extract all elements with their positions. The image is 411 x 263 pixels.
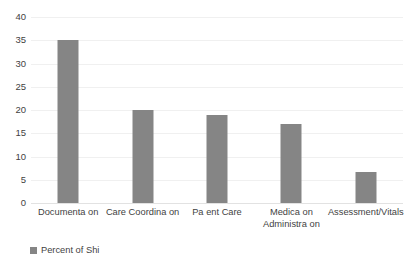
bar-slot — [254, 17, 328, 203]
y-axis-tick-labels: 4035302520151050 — [0, 17, 26, 203]
bar[interactable] — [58, 40, 79, 203]
bar[interactable] — [355, 172, 376, 203]
y-axis-tick-label: 30 — [0, 59, 26, 69]
bar-slot — [329, 17, 403, 203]
bar-slot — [31, 17, 105, 203]
bar[interactable] — [281, 124, 302, 203]
bar[interactable] — [206, 115, 227, 203]
chart-legend: Percent of Shi — [30, 245, 99, 255]
axis-baseline — [31, 203, 403, 204]
y-axis-tick-label: 25 — [0, 82, 26, 92]
y-axis-tick-label: 15 — [0, 128, 26, 138]
y-axis-tick-label: 40 — [0, 12, 26, 22]
x-axis-category-label: Assessment/Vitals — [320, 206, 411, 218]
bar-chart: 4035302520151050 Documenta onCare Coordi… — [0, 0, 411, 263]
bar-slot — [105, 17, 179, 203]
y-axis-tick-label: 10 — [0, 152, 26, 162]
bar[interactable] — [132, 110, 153, 203]
bar-slot — [180, 17, 254, 203]
bars-layer — [31, 17, 403, 203]
x-axis-category-labels: Documenta onCare Coordina onPa ent CareM… — [31, 206, 403, 240]
y-axis-tick-label: 5 — [0, 175, 26, 185]
y-axis-tick-label: 35 — [0, 35, 26, 45]
y-axis-tick-label: 20 — [0, 105, 26, 115]
legend-label: Percent of Shi — [41, 245, 99, 255]
legend-swatch-icon — [30, 247, 37, 254]
